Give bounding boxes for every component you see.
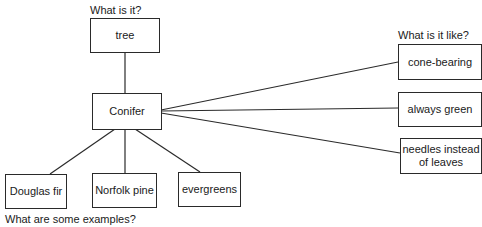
node-always-green: always green [398,92,482,127]
question-what-is-it: What is it? [90,4,141,16]
question-examples: What are some examples? [5,213,136,225]
node-evergreens: evergreens [178,172,241,207]
node-douglas-fir: Douglas fir [5,174,67,209]
node-norfolk-pine: Norfolk pine [92,173,157,208]
node-needles: needles instead of leaves [400,138,482,174]
question-what-is-it-like: What is it like? [398,29,469,41]
node-conifer: Conifer [92,93,162,130]
node-cone-bearing: cone-bearing [398,44,482,80]
node-tree: tree [90,18,160,53]
